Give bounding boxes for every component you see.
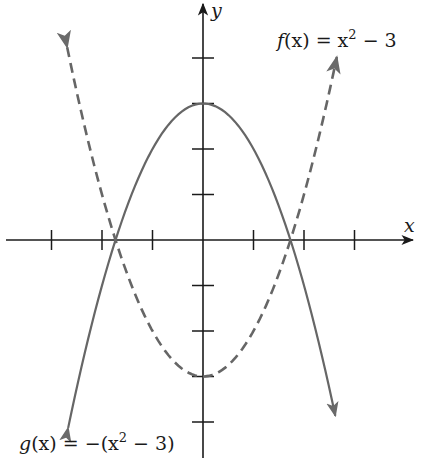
curve-f-dashed-parabola — [67, 47, 337, 376]
y-axis-label: y — [210, 0, 222, 21]
x-axis-label: x — [404, 214, 415, 236]
g-name: g — [19, 432, 31, 454]
g-rest: − 3) — [127, 432, 175, 454]
f-arg: (x) = x — [284, 29, 349, 51]
g-exponent: 2 — [119, 430, 127, 445]
axes — [6, 4, 413, 458]
curve-g-solid-parabola — [68, 104, 335, 428]
f-equation-label: f(x) = x2 − 3 — [275, 27, 397, 51]
g-arg: (x) = −(x — [31, 432, 119, 454]
g-equation-label: g(x) = −(x2 − 3) — [19, 430, 175, 454]
f-exponent: 2 — [348, 27, 356, 42]
f-rest: − 3 — [357, 29, 397, 51]
coordinate-plane: x y f(x) = x2 − 3 g(x) = −(x2 − 3) — [0, 0, 427, 464]
